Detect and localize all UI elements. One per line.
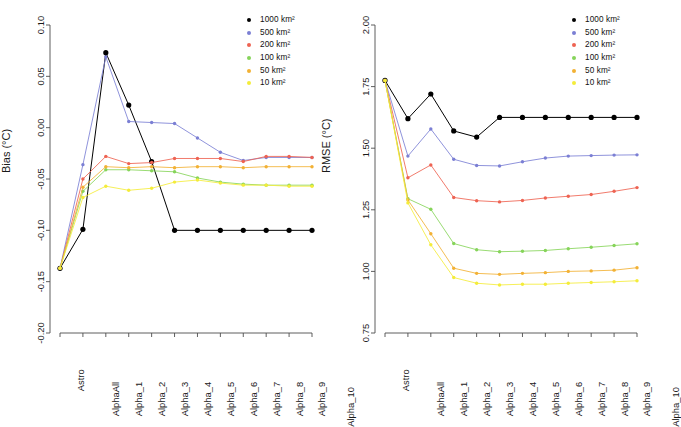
series-point bbox=[543, 115, 548, 120]
series-point bbox=[498, 164, 501, 167]
legend-item: 500 km² bbox=[247, 27, 295, 40]
series-point bbox=[452, 242, 455, 245]
y-tick-label: 0.05 bbox=[35, 67, 46, 85]
legend-label: 10 km² bbox=[260, 79, 286, 87]
legend-item: 200 km² bbox=[572, 39, 620, 52]
legend-marker-icon bbox=[572, 31, 576, 35]
series-point bbox=[428, 91, 433, 96]
y-tick-label: -0.20 bbox=[35, 322, 46, 343]
series-point bbox=[475, 248, 478, 251]
y-tick-label: 0.75 bbox=[360, 324, 371, 342]
legend-item: 1000 km² bbox=[247, 14, 295, 27]
legend-item: 100 km² bbox=[572, 52, 620, 65]
series-line bbox=[385, 80, 637, 285]
legend-item: 100 km² bbox=[247, 52, 295, 65]
legend-marker-icon bbox=[247, 31, 251, 35]
series-line bbox=[60, 180, 312, 268]
series-point bbox=[520, 115, 525, 120]
legend-item: 500 km² bbox=[572, 27, 620, 40]
legend-marker-icon bbox=[572, 81, 576, 85]
series-point bbox=[104, 155, 107, 158]
series-line bbox=[385, 80, 637, 201]
series-point bbox=[635, 153, 638, 156]
series-point bbox=[567, 270, 570, 273]
series-point bbox=[219, 181, 222, 184]
series-point bbox=[81, 163, 84, 166]
legend-item: 10 km² bbox=[247, 77, 295, 90]
legend-item: 200 km² bbox=[247, 39, 295, 52]
series-point bbox=[612, 153, 615, 156]
series-point bbox=[219, 151, 222, 154]
series-point bbox=[521, 160, 524, 163]
y-tick-label: 0.10 bbox=[35, 16, 46, 34]
series-point bbox=[310, 184, 313, 187]
series-point bbox=[310, 165, 313, 168]
y-tick-label: -0.05 bbox=[35, 168, 46, 189]
series-point bbox=[81, 186, 84, 189]
bias-panel: 1000 km²500 km²200 km²100 km²50 km²10 km… bbox=[0, 0, 325, 393]
series-point bbox=[150, 165, 153, 168]
series-point bbox=[127, 166, 130, 169]
x-tick-label: AlphaAll bbox=[435, 382, 446, 416]
legend-label: 1000 km² bbox=[585, 16, 620, 24]
legend-label: 500 km² bbox=[585, 29, 615, 37]
series-point bbox=[611, 115, 616, 120]
legend-item: 1000 km² bbox=[572, 14, 620, 27]
x-tick-label: Alpha_8 bbox=[619, 382, 630, 416]
series-point bbox=[475, 272, 478, 275]
x-tick-label: Astro bbox=[75, 369, 86, 391]
x-tick-label: Alpha_2 bbox=[481, 382, 492, 416]
bias-y-axis-title: Bias (°C) bbox=[0, 129, 12, 173]
series-point bbox=[567, 154, 570, 157]
series-line bbox=[385, 80, 637, 274]
series-point bbox=[406, 154, 409, 157]
series-point bbox=[612, 268, 615, 271]
legend-marker-icon bbox=[572, 18, 576, 22]
legend-label: 200 km² bbox=[260, 41, 290, 49]
x-tick-label: Alpha_6 bbox=[248, 382, 259, 416]
series-point bbox=[612, 190, 615, 193]
series-point bbox=[241, 228, 246, 233]
series-point bbox=[498, 250, 501, 253]
series-point bbox=[310, 156, 313, 159]
series-point bbox=[567, 282, 570, 285]
series-point bbox=[219, 157, 222, 160]
series-point bbox=[104, 184, 107, 187]
series-point bbox=[104, 55, 107, 58]
x-tick-label: Alpha_4 bbox=[202, 382, 213, 416]
series-line bbox=[385, 80, 637, 251]
legend-marker-icon bbox=[247, 43, 251, 47]
series-point bbox=[242, 183, 245, 186]
series-point bbox=[521, 199, 524, 202]
legend-marker-icon bbox=[572, 56, 576, 60]
series-point bbox=[383, 79, 386, 82]
x-tick-label: AlphaAll bbox=[110, 382, 121, 416]
legend-label: 50 km² bbox=[260, 67, 286, 75]
series-point bbox=[126, 102, 131, 107]
series-point bbox=[635, 186, 638, 189]
rmse-y-axis-title: RMSE (°C) bbox=[320, 118, 332, 173]
series-point bbox=[635, 266, 638, 269]
x-tick-label: Alpha_2 bbox=[156, 382, 167, 416]
series-point bbox=[544, 271, 547, 274]
series-line bbox=[385, 80, 637, 166]
y-tick-label: 2.00 bbox=[360, 16, 371, 34]
series-point bbox=[173, 180, 176, 183]
series-point bbox=[589, 154, 592, 157]
x-tick-label: Alpha_10 bbox=[345, 387, 356, 427]
series-point bbox=[58, 267, 61, 270]
series-point bbox=[287, 155, 290, 158]
x-tick-label: Alpha_3 bbox=[504, 382, 515, 416]
legend-label: 1000 km² bbox=[260, 16, 295, 24]
series-point bbox=[567, 195, 570, 198]
y-tick-label: -0.15 bbox=[35, 271, 46, 292]
series-point bbox=[429, 127, 432, 130]
series-point bbox=[173, 166, 176, 169]
y-tick-label: -0.10 bbox=[35, 220, 46, 241]
legend-label: 200 km² bbox=[585, 41, 615, 49]
x-tick-label: Alpha_7 bbox=[596, 382, 607, 416]
series-point bbox=[635, 242, 638, 245]
series-point bbox=[196, 157, 199, 160]
series-point bbox=[173, 157, 176, 160]
